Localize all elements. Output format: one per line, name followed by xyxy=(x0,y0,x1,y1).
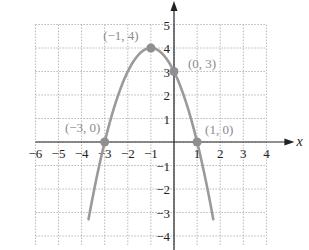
x-tick-label: −2 xyxy=(121,146,135,161)
y-tick-label: 1 xyxy=(164,112,171,127)
point-label: (0, 3) xyxy=(188,56,216,71)
point-marker xyxy=(170,67,179,76)
point-marker xyxy=(100,138,109,147)
parabola-chart: x −6−5−4−3−2−1123454321−1−2−3−4 (−1, 4)(… xyxy=(0,0,309,250)
y-tick-label: −3 xyxy=(156,206,170,221)
y-tick-label: −4 xyxy=(156,229,170,244)
labeled-points: (−1, 4)(0, 3)(−3, 0)(1, 0) xyxy=(65,28,233,147)
point-label: (1, 0) xyxy=(205,122,233,137)
x-tick-label: 3 xyxy=(240,146,247,161)
x-axis-arrow-icon xyxy=(284,139,294,146)
x-axis-label: x xyxy=(295,134,303,149)
point-marker xyxy=(193,138,202,147)
x-tick-label: 2 xyxy=(217,146,224,161)
x-tick-label: −4 xyxy=(75,146,89,161)
x-tick-label: −6 xyxy=(28,146,42,161)
point-label: (−3, 0) xyxy=(65,120,101,135)
point-label: (−1, 4) xyxy=(103,28,139,43)
y-tick-label: 2 xyxy=(164,88,171,103)
y-tick-label: 3 xyxy=(164,65,171,80)
x-tick-label: 4 xyxy=(263,146,270,161)
point-marker xyxy=(146,44,155,53)
y-tick-label: 5 xyxy=(164,18,171,33)
x-tick-label: −5 xyxy=(52,146,66,161)
y-axis-arrow-icon xyxy=(171,1,178,11)
y-tick-label: −1 xyxy=(156,159,170,174)
y-tick-label: −2 xyxy=(156,182,170,197)
y-tick-label: 4 xyxy=(164,41,171,56)
